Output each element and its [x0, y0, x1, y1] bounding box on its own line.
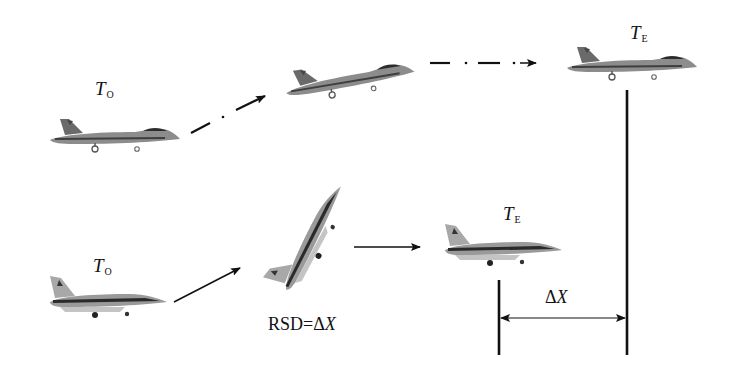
top-end-label: TE: [630, 22, 648, 44]
top-end-aircraft: [567, 47, 697, 80]
label-sub: E: [642, 33, 648, 44]
label-main: T: [95, 78, 106, 99]
equation-var: X: [325, 314, 336, 334]
bottom-end-label: TE: [503, 203, 521, 225]
equation-prefix: RSD=Δ: [268, 314, 325, 334]
label-main: T: [93, 255, 104, 276]
bottom-start-label: TO: [93, 255, 112, 277]
label-sub: E: [515, 214, 521, 225]
bottom-end-aircraft: [445, 224, 562, 266]
top-climb-aircraft: [283, 52, 417, 105]
rsd-equation: RSD=ΔX: [268, 314, 336, 335]
top-path-arrow-1: [191, 96, 265, 133]
label-sub: O: [105, 266, 112, 277]
bottom-path-arrow-1: [174, 268, 240, 302]
top-path-arrow-2: [430, 62, 536, 65]
top-start-aircraft: [50, 119, 180, 152]
diagram-canvas: [0, 0, 729, 380]
label-main: T: [503, 203, 514, 224]
top-start-label: TO: [95, 78, 114, 100]
label-sub: O: [107, 89, 114, 100]
delta-symbol: Δ: [545, 287, 557, 307]
bottom-pitchup-aircraft: [263, 174, 355, 297]
bottom-start-aircraft: [50, 276, 167, 318]
delta-x-label: ΔX: [545, 287, 568, 308]
label-main: T: [630, 22, 641, 43]
delta-var: X: [557, 287, 568, 307]
